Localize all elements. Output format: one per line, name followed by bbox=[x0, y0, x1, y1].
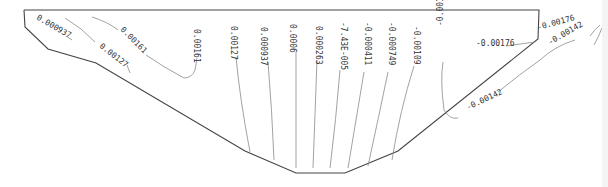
contour-labels: 0.0009370.001270.001610.001610.001270.00… bbox=[35, 0, 585, 112]
contour-neg0.00109 bbox=[392, 66, 414, 160]
contour-neg0.000411 bbox=[348, 72, 364, 168]
contour-svg: 0.0009370.001270.001610.001610.001270.00… bbox=[0, 0, 608, 187]
contour-label: -0.00142 bbox=[436, 0, 445, 26]
contour-label: -0.00109 bbox=[412, 26, 421, 65]
contour-label: 0.000937 bbox=[259, 27, 268, 66]
contour-label: -0.000411 bbox=[363, 22, 372, 66]
contour-label: 0.00127 bbox=[229, 26, 238, 60]
right-edge-strip bbox=[602, 0, 608, 187]
contour-label: -0.000749 bbox=[387, 22, 396, 66]
contour-label: -0.00142 bbox=[465, 87, 504, 112]
contour-label: 0.00161 bbox=[192, 29, 201, 63]
contour-0.000263 bbox=[313, 60, 317, 168]
contour-label: -0.00176 bbox=[476, 39, 515, 48]
contour-label: 0.0006 bbox=[288, 24, 297, 53]
contour-diagram: 0.0009370.001270.001610.001610.001270.00… bbox=[0, 0, 608, 187]
contour-neg0.00142-right bbox=[594, 28, 602, 45]
contour-label: 0.00127 bbox=[98, 41, 130, 69]
contour-label: 0.00161 bbox=[119, 25, 149, 55]
contour-neg7.43e-5 bbox=[330, 70, 340, 168]
contour-neg0.000749 bbox=[368, 72, 388, 166]
contour-label: 0.000937 bbox=[35, 13, 73, 40]
section-boundary bbox=[24, 10, 539, 173]
contour-0.00127 bbox=[236, 57, 250, 152]
contour-label: -7.43E-005 bbox=[339, 22, 348, 70]
contour-label: 0.000263 bbox=[314, 26, 323, 65]
contour-0.000937 bbox=[268, 62, 274, 160]
